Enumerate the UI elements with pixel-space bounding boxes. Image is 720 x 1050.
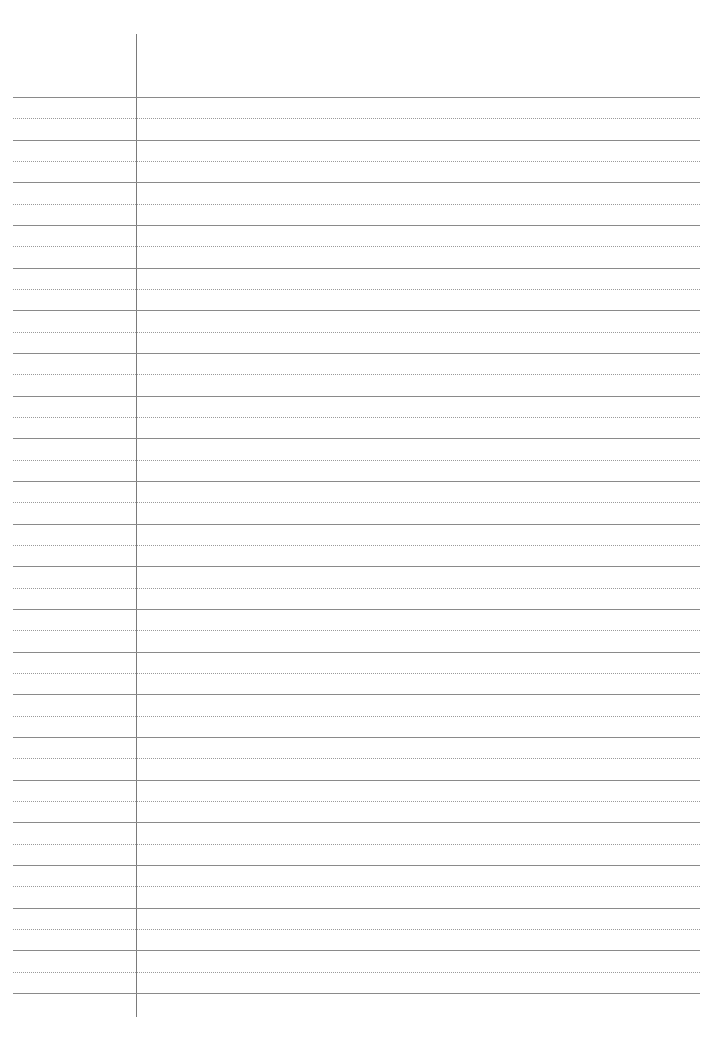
solid-rule-line	[13, 652, 700, 653]
solid-rule-line	[13, 737, 700, 738]
dotted-guide-line	[13, 246, 700, 247]
dotted-guide-line	[13, 588, 700, 589]
solid-rule-line	[13, 993, 700, 994]
dotted-guide-line	[13, 289, 700, 290]
solid-rule-line	[13, 609, 700, 610]
solid-rule-line	[13, 268, 700, 269]
dotted-guide-line	[13, 758, 700, 759]
dotted-guide-line	[13, 972, 700, 973]
dotted-guide-line	[13, 886, 700, 887]
solid-rule-line	[13, 310, 700, 311]
dotted-guide-line	[13, 844, 700, 845]
solid-rule-line	[13, 481, 700, 482]
dotted-guide-line	[13, 673, 700, 674]
solid-rule-line	[13, 97, 700, 98]
solid-rule-line	[13, 524, 700, 525]
solid-rule-line	[13, 950, 700, 951]
dotted-guide-line	[13, 118, 700, 119]
solid-rule-line	[13, 140, 700, 141]
dotted-guide-line	[13, 716, 700, 717]
ruled-sheet	[0, 0, 720, 1050]
dotted-guide-line	[13, 204, 700, 205]
solid-rule-line	[13, 225, 700, 226]
dotted-guide-line	[13, 332, 700, 333]
solid-rule-line	[13, 780, 700, 781]
solid-rule-line	[13, 566, 700, 567]
dotted-guide-line	[13, 460, 700, 461]
dotted-guide-line	[13, 545, 700, 546]
solid-rule-line	[13, 438, 700, 439]
dotted-guide-line	[13, 801, 700, 802]
dotted-guide-line	[13, 417, 700, 418]
dotted-guide-line	[13, 161, 700, 162]
solid-rule-line	[13, 353, 700, 354]
solid-rule-line	[13, 822, 700, 823]
dotted-guide-line	[13, 502, 700, 503]
solid-rule-line	[13, 396, 700, 397]
solid-rule-line	[13, 182, 700, 183]
solid-rule-line	[13, 908, 700, 909]
dotted-guide-line	[13, 630, 700, 631]
dotted-guide-line	[13, 929, 700, 930]
solid-rule-line	[13, 865, 700, 866]
solid-rule-line	[13, 694, 700, 695]
dotted-guide-line	[13, 374, 700, 375]
